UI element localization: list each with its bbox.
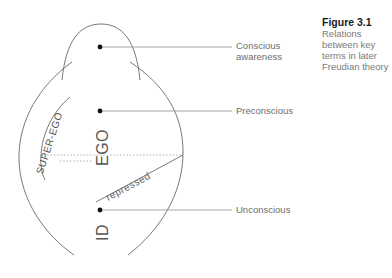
conscious-awareness-label: Conscious awareness	[236, 40, 282, 62]
conscious-label-line1: Conscious	[236, 40, 280, 51]
outer-right-curve	[128, 62, 183, 255]
conscious-dome	[62, 24, 140, 80]
figure-caption: Figure 3.1 Relations between key terms i…	[322, 17, 392, 72]
preconscious-label: Preconscious	[236, 105, 293, 116]
preconscious-dot	[98, 109, 103, 114]
unconscious-dot	[98, 208, 103, 213]
figure-caption-text: Relations between key terms in later Fre…	[322, 28, 389, 72]
conscious-label-line2: awareness	[236, 51, 282, 62]
figure-number: Figure 3.1	[322, 17, 392, 28]
unconscious-label: Unconscious	[236, 204, 290, 215]
id-label: ID	[94, 224, 112, 241]
conscious-dot	[98, 45, 103, 50]
ego-label: EGO	[94, 129, 112, 166]
